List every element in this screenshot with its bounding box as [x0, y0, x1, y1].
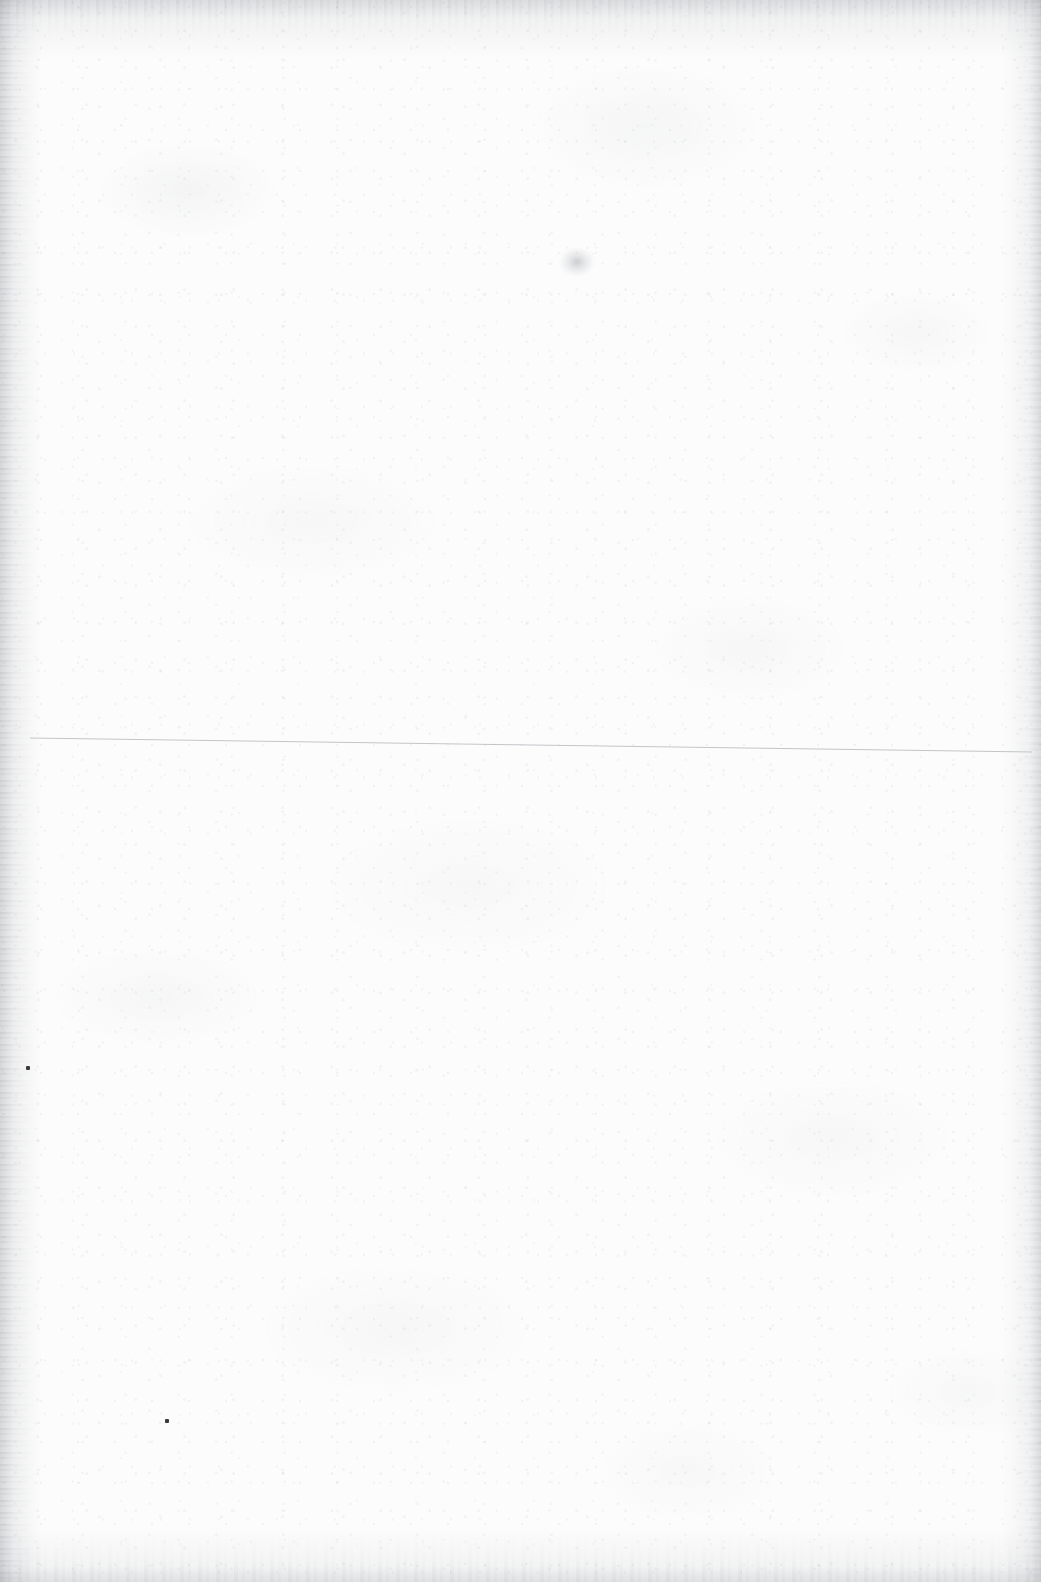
- paper-background: [0, 0, 1041, 1582]
- scanned-page: Scanned blank page with paper grain, one…: [0, 0, 1041, 1582]
